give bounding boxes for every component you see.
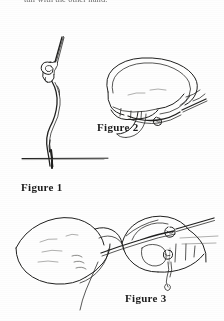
scan-texture-overlay — [0, 0, 224, 321]
document-page: tail with the other hand. — [0, 0, 224, 321]
